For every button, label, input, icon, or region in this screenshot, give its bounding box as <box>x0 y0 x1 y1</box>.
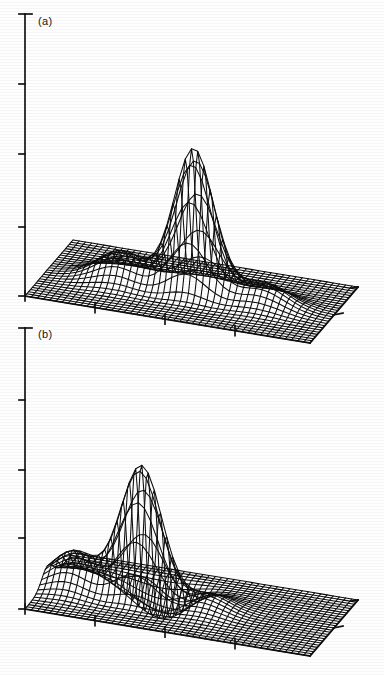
figure-page: (a) (b) <box>0 0 384 675</box>
surface-plot-b <box>0 320 384 675</box>
surface-plot-a <box>0 0 384 345</box>
panel-b: (b) <box>0 320 384 675</box>
panel-a: (a) <box>0 0 384 345</box>
